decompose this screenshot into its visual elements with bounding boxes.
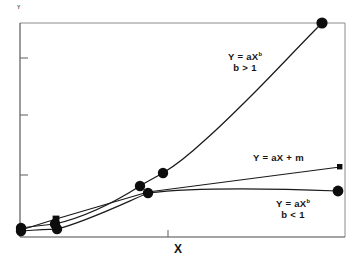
annotation-power-low: Y = aXb b < 1 bbox=[276, 198, 310, 221]
annotation-power-low-exponent: b bbox=[306, 198, 310, 204]
data-point-marker bbox=[333, 186, 344, 197]
data-point-marker bbox=[16, 226, 26, 236]
x-axis-label: X bbox=[174, 242, 182, 256]
annotation-linear: Y = aX + m bbox=[253, 152, 304, 163]
annotation-power-high-expression: Y = aX bbox=[228, 51, 258, 62]
annotation-linear-expression: Y = aX + m bbox=[253, 152, 304, 163]
annotation-power-high-exponent: b bbox=[258, 51, 262, 57]
y-axis-label: Y bbox=[17, 5, 21, 11]
data-point-marker bbox=[316, 17, 327, 28]
data-point-marker bbox=[53, 216, 60, 223]
data-point-marker bbox=[337, 164, 342, 169]
data-point-marker bbox=[135, 181, 145, 191]
plot-canvas bbox=[0, 0, 357, 268]
annotation-power-low-expression: Y = aX bbox=[276, 198, 306, 209]
data-point-marker bbox=[52, 224, 62, 234]
annotation-power-high-condition: b > 1 bbox=[228, 62, 262, 73]
annotation-power-low-condition: b < 1 bbox=[276, 209, 310, 220]
figure-container: Y = aXb b > 1 Y = aX + m Y = aXb b < 1 X… bbox=[0, 0, 357, 268]
annotation-power-high: Y = aXb b > 1 bbox=[228, 51, 262, 74]
data-point-marker bbox=[143, 188, 153, 198]
data-point-marker bbox=[158, 168, 168, 178]
